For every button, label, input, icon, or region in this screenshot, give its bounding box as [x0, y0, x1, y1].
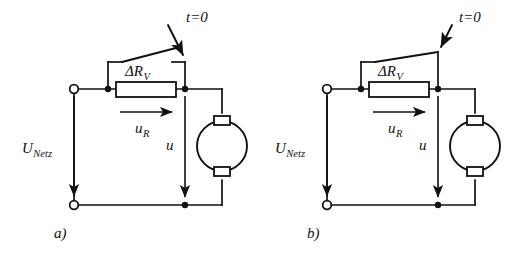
motor-brush-bottom-a — [214, 167, 230, 176]
resistor-label-b: ΔRV — [377, 63, 404, 82]
motor-voltage-label-a: u — [166, 137, 174, 153]
junction-right-a — [182, 86, 188, 92]
motor-brush-top-a — [214, 116, 230, 125]
supply-terminal-top-b[interactable] — [323, 85, 332, 94]
circuit-diagram-figure: t=0 ΔRV uR u UNetz a) t=0 — [0, 0, 521, 260]
panel-a: t=0 ΔRV uR u UNetz a) — [22, 9, 247, 242]
panel-caption-a: a) — [54, 225, 67, 242]
junction-bottom-b — [435, 202, 441, 208]
supply-terminal-bottom-a[interactable] — [70, 201, 79, 210]
junction-left-a — [105, 86, 111, 92]
switch-time-pointer-b — [441, 25, 452, 47]
switch-time-label-b: t=0 — [459, 9, 481, 25]
resistor-label-a: ΔRV — [124, 63, 151, 82]
dc-motor-b[interactable] — [450, 121, 500, 171]
junction-bottom-a — [182, 202, 188, 208]
series-resistor-b[interactable] — [369, 82, 429, 97]
supply-terminal-top-a[interactable] — [70, 85, 79, 94]
junction-right-b — [435, 86, 441, 92]
supply-terminal-bottom-b[interactable] — [323, 201, 332, 210]
switch-time-label-a: t=0 — [186, 9, 208, 25]
motor-brush-top-b — [467, 116, 483, 125]
supply-voltage-label-a: UNetz — [22, 140, 52, 159]
circuit-diagram-canvas: t=0 ΔRV uR u UNetz a) t=0 — [0, 0, 521, 260]
panel-caption-b: b) — [307, 225, 320, 242]
resistor-voltage-label-b: uR — [388, 120, 403, 139]
motor-voltage-label-b: u — [419, 137, 427, 153]
dc-motor-a[interactable] — [197, 121, 247, 171]
junction-left-b — [358, 86, 364, 92]
resistor-voltage-label-a: uR — [135, 120, 150, 139]
bypass-switch-lever-a[interactable] — [122, 48, 176, 62]
panel-b: t=0 ΔRV uR u UNetz b) — [275, 9, 500, 242]
supply-voltage-label-b: UNetz — [275, 140, 305, 159]
series-resistor-a[interactable] — [116, 82, 176, 97]
bypass-switch-lever-b[interactable] — [375, 52, 438, 62]
motor-brush-bottom-b — [467, 167, 483, 176]
